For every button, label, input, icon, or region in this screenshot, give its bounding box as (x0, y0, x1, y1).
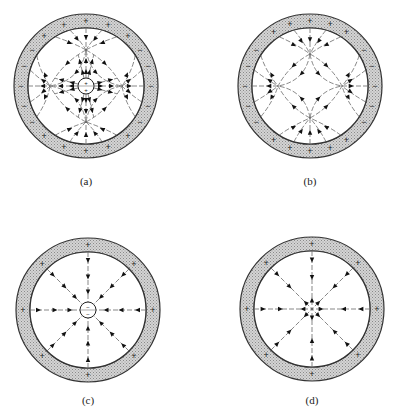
negative-charge-icon: − (137, 117, 142, 127)
panel-b-label: (b) (304, 175, 317, 188)
negative-charge-icon: − (253, 117, 258, 127)
negative-charge-icon: − (253, 45, 258, 55)
negative-charge-icon: − (361, 117, 366, 127)
field-lines (254, 251, 370, 367)
negative-charge-icon: − (369, 61, 374, 71)
negative-charge-icon: − (22, 61, 27, 71)
positive-charge-icon: + (309, 239, 314, 249)
negative-charge-icon: − (29, 45, 34, 55)
positive-charge-icon: + (271, 135, 276, 145)
positive-charge-icon: + (287, 19, 292, 29)
positive-charge-icon: + (42, 131, 47, 141)
negative-charge-icon: − (86, 311, 90, 317)
positive-charge-icon: + (85, 370, 90, 380)
negative-charge-icon: − (137, 45, 142, 55)
positive-charge-icon: + (344, 135, 349, 145)
positive-charge-icon: + (374, 304, 379, 314)
positive-charge-icon: + (263, 258, 268, 268)
positive-charge-icon: + (244, 304, 249, 314)
positive-charge-icon: + (344, 27, 349, 37)
negative-charge-icon: − (369, 101, 374, 111)
panel-c-label: (c) (82, 394, 95, 407)
positive-charge-icon: + (83, 146, 88, 156)
positive-charge-icon: + (106, 20, 111, 30)
panel-a: ++++++++++−−−−−−−−−−++ (14, 14, 158, 158)
positive-charge-icon: + (61, 142, 66, 152)
positive-charge-icon: + (84, 87, 88, 93)
positive-charge-icon: + (307, 146, 312, 156)
positive-charge-icon: + (61, 20, 66, 30)
positive-charge-icon: + (150, 305, 155, 315)
positive-charge-icon: + (131, 259, 136, 269)
negative-charge-icon: − (145, 61, 150, 71)
positive-charge-icon: + (125, 31, 130, 41)
negative-charge-icon: − (86, 304, 90, 310)
positive-charge-icon: + (355, 258, 360, 268)
negative-charge-icon: − (22, 101, 27, 111)
negative-charge-icon: − (372, 81, 377, 91)
positive-charge-icon: + (263, 350, 268, 360)
panel-c: ++++++++−− (16, 238, 160, 382)
negative-charge-icon: − (148, 81, 153, 91)
positive-charge-icon: + (39, 259, 44, 269)
negative-charge-icon: − (242, 81, 247, 91)
positive-charge-icon: + (125, 131, 130, 141)
positive-charge-icon: + (83, 16, 88, 26)
positive-charge-icon: + (309, 369, 314, 379)
panel-b: ++++++++++−−−−−−−−−− (238, 14, 382, 158)
positive-charge-icon: + (20, 305, 25, 315)
panel-d: ++++++++ (240, 237, 384, 381)
panel-d-label: (d) (306, 394, 319, 407)
positive-charge-icon: + (131, 351, 136, 361)
positive-charge-icon: + (85, 240, 90, 250)
positive-charge-icon: + (271, 27, 276, 37)
negative-charge-icon: − (361, 45, 366, 55)
positive-charge-icon: + (287, 143, 292, 153)
positive-charge-icon: + (355, 350, 360, 360)
positive-charge-icon: + (106, 142, 111, 152)
negative-charge-icon: − (29, 117, 34, 127)
positive-charge-icon: + (39, 351, 44, 361)
positive-charge-icon: + (84, 80, 88, 86)
negative-charge-icon: − (246, 61, 251, 71)
positive-charge-icon: + (327, 143, 332, 153)
positive-charge-icon: + (327, 19, 332, 29)
negative-charge-icon: − (18, 81, 23, 91)
negative-charge-icon: − (246, 101, 251, 111)
positive-charge-icon: + (42, 31, 47, 41)
negative-charge-icon: − (145, 101, 150, 111)
positive-charge-icon: + (307, 16, 312, 26)
field-diagram-figure: ++++++++++−−−−−−−−−−++ ++++++++++−−−−−−−… (0, 0, 400, 417)
panel-a-label: (a) (80, 175, 93, 188)
